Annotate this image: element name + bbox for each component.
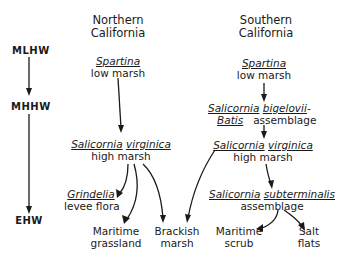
- northern-grassland-line2: grassland: [87, 237, 145, 249]
- tide-label-ehw: EHW: [14, 215, 44, 227]
- southern-salt-flats: Salt flats: [292, 225, 326, 249]
- northern-low-marsh-desc: low marsh: [88, 67, 148, 79]
- northern-low-marsh: Spartina low marsh: [88, 55, 148, 79]
- southern-virginica: virginica: [268, 139, 313, 151]
- southern-bigelovii-desc: assemblage: [253, 114, 316, 126]
- arrow-n-low-to-high: [118, 78, 121, 128]
- dash: -: [307, 102, 311, 114]
- northern-levee-desc: levee flora: [64, 200, 118, 212]
- southern-high-marsh-desc: high marsh: [208, 151, 318, 163]
- arrow-s-sub-to-saltflats: [284, 210, 302, 226]
- northern-grassland-line1: Maritime: [87, 225, 145, 237]
- arrow-s-sub-to-scrub: [262, 210, 278, 228]
- northern-spartina: Spartina: [96, 55, 140, 67]
- northern-salicornia: Salicornia: [71, 138, 122, 150]
- arrowhead-icon: [26, 206, 32, 214]
- southern-low-marsh-desc: low marsh: [234, 69, 294, 81]
- southern-subterminalis: Salicornia subterminalis assemblage: [208, 188, 336, 212]
- arrow-n-high-to-levee: [120, 164, 128, 193]
- southern-salt-line2: flats: [292, 237, 326, 249]
- tide-label-mlhw: MLHW: [12, 45, 48, 57]
- southern-subterminalis-desc: assemblage: [208, 200, 336, 212]
- southern-salicornia-2: Salicornia: [213, 139, 264, 151]
- northern-grassland: Maritime grassland: [87, 225, 145, 249]
- brackish-line1: Brackish: [152, 225, 202, 237]
- southern-bigelovii-species: bigelovii: [263, 102, 307, 114]
- tide-label-mhhw: MHHW: [11, 101, 49, 113]
- arrowhead-icon: [118, 125, 124, 133]
- northern-grindelia: Grindelia: [67, 188, 114, 200]
- southern-salt-line1: Salt: [292, 225, 326, 237]
- southern-salicornia-1: Salicornia: [208, 102, 259, 114]
- brackish-marsh: Brackish marsh: [152, 225, 202, 249]
- southern-salicornia-3: Salicornia: [209, 188, 260, 200]
- arrowhead-icon: [185, 214, 191, 223]
- southern-scrub-line2: scrub: [214, 237, 264, 249]
- northern-high-marsh: Salicornia virginica high marsh: [66, 138, 176, 162]
- arrow-n-high-to-brackish: [143, 164, 163, 218]
- southern-batis: Batis: [217, 114, 243, 126]
- arrowhead-icon: [261, 131, 267, 139]
- arrow-n-high-to-grassland: [127, 164, 137, 219]
- southern-subterminalis-species: subterminalis: [264, 188, 335, 200]
- northern-high-marsh-desc: high marsh: [66, 150, 176, 162]
- brackish-line2: marsh: [152, 237, 202, 249]
- arrowhead-icon: [261, 94, 267, 102]
- southern-low-marsh: Spartina low marsh: [234, 57, 294, 81]
- southern-bigelovii: Salicornia bigelovii- Batis assemblage: [208, 102, 328, 126]
- northern-header-line2: California: [86, 27, 150, 40]
- southern-header: Southern California: [234, 14, 298, 40]
- southern-header-line2: California: [234, 27, 298, 40]
- northern-levee: Grindelia levee flora: [64, 188, 118, 212]
- southern-scrub-line1: Maritime: [214, 225, 264, 237]
- southern-scrub: Maritime scrub: [214, 225, 264, 249]
- southern-spartina: Spartina: [242, 57, 286, 69]
- southern-high-marsh: Salicornia virginica high marsh: [208, 139, 318, 163]
- arrowhead-icon: [160, 215, 166, 223]
- northern-virginica: virginica: [126, 138, 171, 150]
- arrowhead-icon: [26, 88, 32, 96]
- northern-header: Northern California: [86, 14, 150, 40]
